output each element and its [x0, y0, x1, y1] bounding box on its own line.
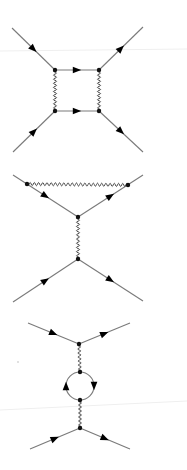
photon-propagator — [78, 400, 81, 428]
arrow-icon — [63, 382, 70, 390]
scan-artifact-line — [0, 401, 187, 410]
arrow-icon — [100, 434, 109, 440]
fermion-loop — [66, 372, 94, 400]
scan-artifact-dot — [17, 361, 19, 363]
arrow-icon — [40, 191, 49, 198]
arrow-icon — [40, 278, 49, 285]
vertex-dot — [77, 342, 81, 346]
vertex-dot — [78, 426, 82, 430]
arrow-icon — [91, 382, 98, 390]
vertex-dot — [126, 183, 130, 187]
vertex-dot — [78, 398, 82, 402]
arrow-icon — [105, 194, 114, 201]
vertex-dot — [53, 109, 57, 113]
box-diagram — [12, 27, 143, 152]
photon-propagator — [77, 344, 81, 372]
vertex-correction-diagram — [13, 175, 143, 302]
vertex-dot — [53, 68, 57, 72]
photon-propagator — [97, 70, 100, 111]
arrow-icon — [105, 275, 114, 282]
vertex-dot — [78, 370, 82, 374]
arrow-icon — [73, 108, 81, 115]
vertex-dot — [76, 215, 80, 219]
photon-propagator — [27, 182, 128, 186]
vertex-dot — [25, 182, 29, 186]
photon-propagator — [76, 217, 79, 259]
vacuum-polarization-diagram — [28, 323, 130, 449]
vertex-dot — [97, 109, 101, 113]
arrow-icon — [48, 329, 57, 335]
scan-artifact-line — [0, 49, 187, 51]
arrow-icon — [50, 437, 59, 443]
vertex-dot — [97, 68, 101, 72]
vertex-dot — [76, 257, 80, 261]
arrow-icon — [73, 67, 81, 74]
photon-propagator — [53, 70, 56, 111]
feynman-diagrams-figure — [0, 0, 187, 470]
arrow-icon — [99, 332, 108, 338]
